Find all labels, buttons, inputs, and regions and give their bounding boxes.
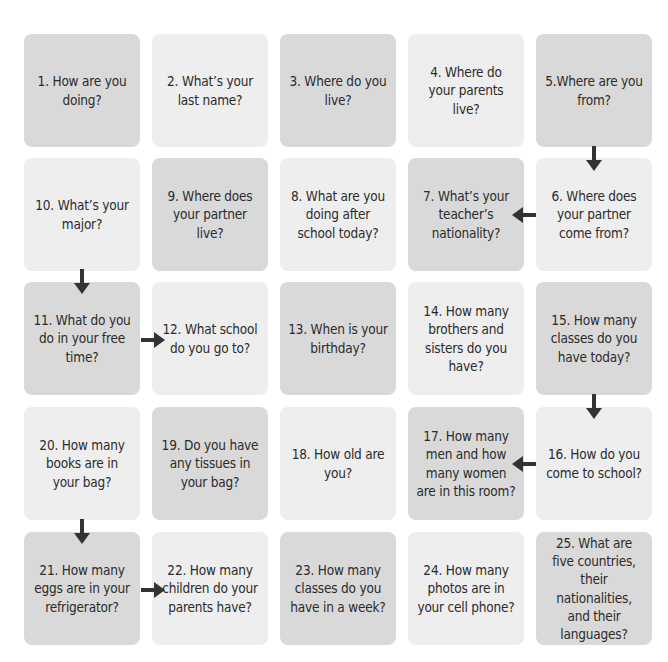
question-text: 21. How many eggs are in your refrigerat… xyxy=(32,561,132,616)
question-card-2: 2. What’s your last name? xyxy=(152,34,268,147)
question-card-22: 22. How many children do your parents ha… xyxy=(152,532,268,645)
question-text: 23. How many classes do you have in a we… xyxy=(288,561,388,616)
question-card-17: 17. How many men and how many women are … xyxy=(408,407,524,520)
question-text: 11. What do you do in your free time? xyxy=(32,311,132,366)
question-text: 22. How many children do your parents ha… xyxy=(160,561,260,616)
question-text: 1. How are you doing? xyxy=(32,72,132,108)
question-text: 10. What’s your major? xyxy=(32,196,132,232)
question-card-12: 12. What school do you go to? xyxy=(152,282,268,395)
question-card-5: 5.Where are you from? xyxy=(536,34,652,147)
question-card-21: 21. How many eggs are in your refrigerat… xyxy=(24,532,140,645)
question-text: 15. How many classes do you have today? xyxy=(544,311,644,366)
question-text: 17. How many men and how many women are … xyxy=(416,427,516,500)
arrow-down-icon xyxy=(74,269,90,295)
arrow-right-icon xyxy=(141,332,165,348)
arrow-left-icon xyxy=(512,207,536,223)
question-card-10: 10. What’s your major? xyxy=(24,158,140,271)
question-card-15: 15. How many classes do you have today? xyxy=(536,282,652,395)
question-text: 14. How many brothers and sisters do you… xyxy=(416,302,516,375)
question-text: 18. How old are you? xyxy=(288,445,388,481)
question-text: 2. What’s your last name? xyxy=(160,72,260,108)
question-card-11: 11. What do you do in your free time? xyxy=(24,282,140,395)
question-card-6: 6. Where does your partner come from? xyxy=(536,158,652,271)
question-text: 16. How do you come to school? xyxy=(544,445,644,481)
question-text: 7. What’s your teacher’s nationality? xyxy=(416,187,516,242)
question-text: 9. Where does your partner live? xyxy=(160,187,260,242)
question-text: 12. What school do you go to? xyxy=(160,320,260,356)
question-card-4: 4. Where do your parents live? xyxy=(408,34,524,147)
arrow-down-icon xyxy=(586,146,602,172)
question-text: 4. Where do your parents live? xyxy=(416,63,516,118)
question-card-18: 18. How old are you? xyxy=(280,407,396,520)
question-card-23: 23. How many classes do you have in a we… xyxy=(280,532,396,645)
question-card-25: 25. What are five countries, their natio… xyxy=(536,532,652,645)
question-text: 19. Do you have any tissues in your bag? xyxy=(160,436,260,491)
question-card-19: 19. Do you have any tissues in your bag? xyxy=(152,407,268,520)
question-card-1: 1. How are you doing? xyxy=(24,34,140,147)
arrow-right-icon xyxy=(141,582,165,598)
cropped-title xyxy=(105,0,335,4)
question-card-13: 13. When is your birthday? xyxy=(280,282,396,395)
question-text: 24. How many photos are in your cell pho… xyxy=(416,561,516,616)
question-card-8: 8. What are you doing after school today… xyxy=(280,158,396,271)
question-text: 25. What are five countries, their natio… xyxy=(544,534,644,643)
question-card-24: 24. How many photos are in your cell pho… xyxy=(408,532,524,645)
question-text: 3. Where do you live? xyxy=(288,72,388,108)
question-text: 5.Where are you from? xyxy=(544,72,644,108)
question-card-7: 7. What’s your teacher’s nationality? xyxy=(408,158,524,271)
arrow-down-icon xyxy=(586,394,602,420)
question-card-16: 16. How do you come to school? xyxy=(536,407,652,520)
question-text: 8. What are you doing after school today… xyxy=(288,187,388,242)
question-card-20: 20. How many books are in your bag? xyxy=(24,407,140,520)
question-card-3: 3. Where do you live? xyxy=(280,34,396,147)
arrow-down-icon xyxy=(74,519,90,545)
question-text: 13. When is your birthday? xyxy=(288,320,388,356)
question-text: 6. Where does your partner come from? xyxy=(544,187,644,242)
question-text: 20. How many books are in your bag? xyxy=(32,436,132,491)
arrow-left-icon xyxy=(512,456,536,472)
question-card-14: 14. How many brothers and sisters do you… xyxy=(408,282,524,395)
question-card-9: 9. Where does your partner live? xyxy=(152,158,268,271)
